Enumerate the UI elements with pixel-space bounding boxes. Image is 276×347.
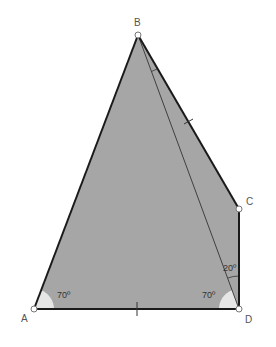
label-c: C	[246, 196, 253, 207]
point-a	[31, 306, 37, 312]
angle-a-label: 70º	[57, 290, 71, 300]
point-d	[236, 306, 242, 312]
angle-bdc-label: 20º	[223, 263, 237, 273]
label-b: B	[134, 17, 141, 28]
point-b	[135, 32, 141, 38]
quadrilateral-abcd	[34, 35, 239, 309]
angle-adb-label: 70º	[202, 290, 216, 300]
label-a: A	[21, 313, 28, 324]
label-d: D	[245, 314, 252, 325]
geometry-diagram: A B C D 70º 70º 20º	[0, 0, 276, 347]
point-c	[236, 206, 242, 212]
